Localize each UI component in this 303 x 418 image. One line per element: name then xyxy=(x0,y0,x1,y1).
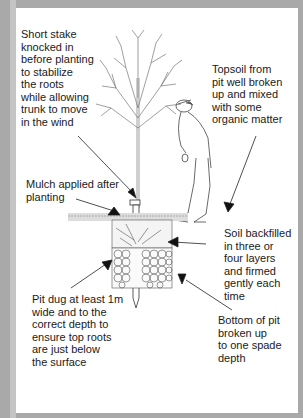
annotation-topsoil: Topsoil from pit well broken up and mixe… xyxy=(212,63,282,126)
planting-pit-icon xyxy=(112,248,172,288)
annotation-pit: Pit dug at least 1m wide and to the corr… xyxy=(32,293,123,368)
annotation-mulch: Mulch applied after planting xyxy=(26,178,119,203)
gardener-figure-icon xyxy=(174,100,211,222)
annotation-bottom: Bottom of pit broken up to one spade dep… xyxy=(218,314,282,364)
annotation-stake: Short stake knocked in before planting t… xyxy=(21,28,94,128)
backfill-soil-icon xyxy=(112,220,172,248)
diagram-panel: Short stake knocked in before planting t… xyxy=(16,8,298,413)
annotation-backfill: Soil backfilled in three or four layers … xyxy=(224,227,291,302)
